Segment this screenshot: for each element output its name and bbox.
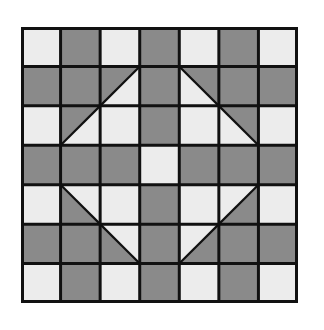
dark-square	[140, 185, 180, 224]
light-square	[21, 185, 61, 224]
dark-square	[258, 224, 298, 263]
dark-square	[219, 145, 259, 184]
light-square	[179, 264, 219, 303]
light-square	[258, 106, 298, 145]
light-square	[179, 106, 219, 145]
light-square	[258, 185, 298, 224]
dark-square	[61, 145, 101, 184]
light-square	[100, 27, 140, 66]
light-square	[21, 27, 61, 66]
dark-square	[258, 66, 298, 105]
dark-square	[21, 145, 61, 184]
quilt-block	[21, 27, 298, 303]
dark-square	[140, 106, 180, 145]
dark-square	[140, 224, 180, 263]
dark-square	[100, 145, 140, 184]
light-square	[100, 264, 140, 303]
dark-square	[219, 27, 259, 66]
dark-square	[140, 264, 180, 303]
light-square	[100, 185, 140, 224]
dark-square	[258, 145, 298, 184]
light-square	[100, 106, 140, 145]
dark-square	[21, 66, 61, 105]
light-square	[21, 264, 61, 303]
dark-square	[61, 27, 101, 66]
light-square	[179, 185, 219, 224]
light-square	[140, 145, 180, 184]
dark-square	[219, 66, 259, 105]
dark-square	[219, 264, 259, 303]
light-square	[258, 27, 298, 66]
light-square	[21, 106, 61, 145]
dark-square	[140, 27, 180, 66]
quilt-grid	[21, 27, 298, 303]
light-square	[179, 27, 219, 66]
dark-square	[61, 224, 101, 263]
dark-square	[61, 264, 101, 303]
dark-square	[219, 224, 259, 263]
light-square	[258, 264, 298, 303]
dark-square	[179, 145, 219, 184]
dark-square	[21, 224, 61, 263]
dark-square	[140, 66, 180, 105]
dark-square	[61, 66, 101, 105]
